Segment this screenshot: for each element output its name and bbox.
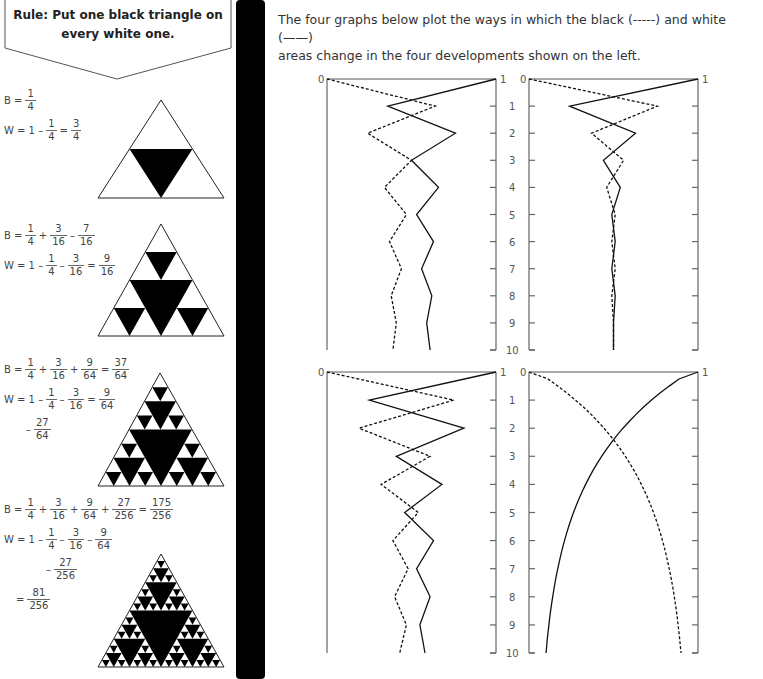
tick-label: 1 [509, 395, 515, 406]
black-area-line [529, 79, 657, 350]
tick-label: 6 [509, 536, 515, 547]
tick-label: 1 [509, 101, 515, 112]
white-area-line [546, 372, 698, 653]
label-zero: 0 [318, 74, 324, 85]
tick-label: 7 [509, 264, 515, 275]
tick-label: 9 [509, 620, 515, 631]
tick-label: 9 [509, 318, 515, 329]
tick-label: 4 [509, 182, 515, 193]
black-area-line [327, 79, 435, 350]
tick-label: 2 [509, 128, 515, 139]
black-area-line [529, 372, 681, 653]
label-one: 1 [702, 74, 708, 85]
tick-label: 3 [509, 155, 515, 166]
label-zero: 0 [318, 367, 324, 378]
tick-label: 6 [509, 237, 515, 248]
label-one: 1 [500, 74, 506, 85]
tick-label: 5 [509, 508, 515, 519]
tick-label: 4 [509, 479, 515, 490]
label-zero: 0 [520, 74, 526, 85]
tick-label: 2 [509, 423, 515, 434]
tick-label: 8 [509, 291, 515, 302]
white-area-line [369, 372, 496, 653]
black-area-line [327, 372, 454, 653]
tick-label: 10 [506, 345, 519, 356]
label-zero: 0 [520, 367, 526, 378]
tick-label: 10 [506, 648, 519, 659]
tick-label: 8 [509, 592, 515, 603]
tick-label: 5 [509, 210, 515, 221]
graphs: 011234567891001011234567891001 [0, 0, 763, 679]
white-area-line [570, 79, 698, 350]
label-one: 1 [702, 367, 708, 378]
label-one: 1 [500, 367, 506, 378]
tick-label: 7 [509, 564, 515, 575]
white-area-line [388, 79, 496, 350]
tick-label: 3 [509, 451, 515, 462]
